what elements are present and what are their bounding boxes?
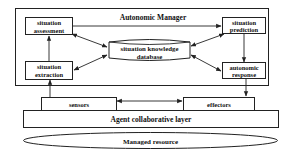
- situation-prediction-label-line1: situation: [232, 19, 257, 26]
- situation-extraction-label-line2: extraction: [35, 71, 64, 78]
- database-label-line1: situation knowledge: [121, 45, 179, 52]
- autonomic-architecture-diagram: Autonomic Manager situation assessment s…: [0, 0, 296, 154]
- situation-extraction-node: situation extraction: [26, 62, 73, 80]
- autonomic-manager-title: Autonomic Manager: [120, 13, 187, 22]
- autonomic-response-label-line2: response: [232, 71, 256, 78]
- situation-extraction-label-line1: situation: [37, 63, 62, 70]
- effectors-label: effectors: [207, 101, 231, 108]
- database-label-line2: database: [137, 53, 163, 60]
- autonomic-response-node: autonomic response: [223, 63, 266, 79]
- sensors-label: sensors: [69, 101, 90, 108]
- sensors-node: sensors: [42, 98, 117, 111]
- situation-assessment-node: situation assessment: [26, 18, 73, 35]
- situation-prediction-label-line2: prediction: [230, 26, 259, 33]
- effectors-node: effectors: [184, 98, 255, 111]
- managed-resource: Managed resource: [24, 133, 278, 149]
- situation-knowledge-database: situation knowledge database: [109, 40, 190, 61]
- situation-assessment-label-line2: assessment: [34, 27, 65, 34]
- autonomic-response-label-line1: autonomic: [229, 64, 258, 71]
- situation-assessment-label-line1: situation: [37, 19, 62, 26]
- agent-collaborative-layer: Agent collaborative layer: [24, 111, 279, 128]
- managed-resource-label: Managed resource: [123, 138, 178, 146]
- situation-prediction-node: situation prediction: [223, 18, 266, 34]
- agent-layer-label: Agent collaborative layer: [111, 115, 192, 124]
